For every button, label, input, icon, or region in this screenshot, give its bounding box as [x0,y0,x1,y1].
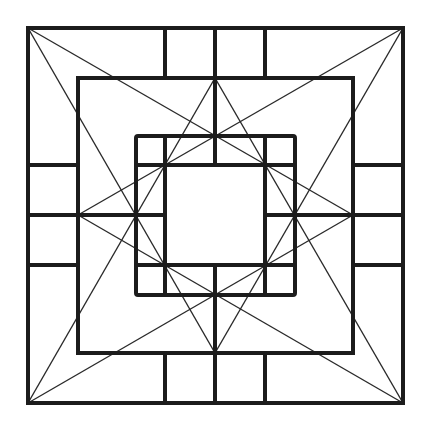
geometric-diagram [0,0,429,431]
grid-segments [28,28,403,403]
center-square [165,165,265,265]
